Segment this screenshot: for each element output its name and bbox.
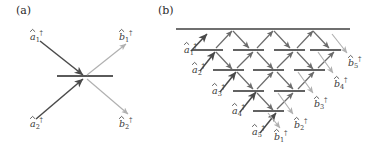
- input-arrow-a2: [36, 79, 83, 119]
- internal-link-2: [257, 31, 273, 48]
- internal-link-8: [257, 52, 273, 69]
- internal-link-6: [216, 52, 232, 69]
- output-label-b2-text: b2†: [294, 117, 308, 132]
- output-label-b2: b2†: [294, 117, 308, 132]
- output-label-b5-text: b5†: [348, 55, 362, 70]
- internal-link-16: [257, 93, 273, 110]
- output-label-b1: b1†: [119, 29, 133, 44]
- output-label-b1-text: b1†: [274, 129, 288, 144]
- input-arrow-a1: [40, 41, 83, 75]
- output-label-b4: b4†: [334, 76, 348, 91]
- internal-link-14: [277, 72, 293, 89]
- internal-link-5: [313, 31, 329, 48]
- output-label-b1: b1†: [274, 129, 288, 144]
- panel-label-a: (a): [16, 4, 31, 17]
- input-label-a2-text: a2†: [192, 62, 205, 77]
- internal-link-10: [297, 52, 313, 69]
- panel-a: (a)a1†a2†b1†b2†: [16, 4, 133, 131]
- input-label-a5: a5†: [252, 124, 265, 139]
- output-label-b5: b5†: [348, 55, 362, 70]
- beam-splitter-network-svg: (a)a1†a2†b1†b2† (b)a1†a2†a3†a4†a5†b5†b4†…: [0, 0, 371, 146]
- input-label-a2: a2†: [192, 62, 205, 77]
- panel-label-b: (b): [158, 4, 174, 17]
- internal-link-7: [237, 52, 253, 68]
- panel-b: (b)a1†a2†a3†a4†a5†b5†b4†b3†b2†b1†: [158, 4, 362, 144]
- output-label-b4-text: b4†: [334, 76, 348, 91]
- input-label-a4: a4†: [232, 103, 245, 118]
- internal-link-3: [274, 31, 290, 48]
- input-label-a3: a3†: [212, 83, 225, 98]
- output-label-b1-text: b1†: [119, 29, 133, 44]
- output-label-b2: b2†: [119, 116, 133, 131]
- internal-link-9: [277, 52, 293, 68]
- internal-link-12: [237, 72, 253, 89]
- input-label-a1: a1†: [184, 42, 197, 57]
- output-label-b3: b3†: [314, 96, 328, 111]
- figure-canvas: (a)a1†a2†b1†b2† (b)a1†a2†a3†a4†a5†b5†b4†…: [0, 0, 371, 146]
- internal-link-0: [216, 31, 232, 48]
- output-arrow-b1: [87, 44, 126, 75]
- output-label-b2-text: b2†: [119, 116, 133, 131]
- input-label-a3-text: a3†: [212, 83, 225, 98]
- input-label-a5-text: a5†: [252, 124, 265, 139]
- input-label-a4-text: a4†: [232, 103, 245, 118]
- output-arrow-b2: [87, 79, 128, 114]
- internal-link-4: [297, 31, 313, 48]
- internal-link-1: [233, 31, 249, 48]
- output-label-b3-text: b3†: [314, 96, 328, 111]
- internal-link-13: [257, 72, 273, 89]
- input-label-a1-text: a1†: [184, 42, 197, 57]
